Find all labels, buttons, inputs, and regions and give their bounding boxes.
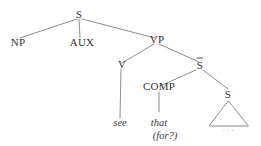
edge-vp-to-v bbox=[122, 44, 154, 63]
node-np: NP bbox=[11, 37, 25, 48]
leaf-that: that bbox=[151, 117, 167, 129]
node-aux: AUX bbox=[70, 37, 94, 48]
node-root-s: S bbox=[76, 9, 82, 20]
embedded-s-ellipsis: ... bbox=[223, 124, 236, 133]
node-embedded-s: S bbox=[225, 89, 231, 100]
leaf-for-question: (for?) bbox=[153, 130, 178, 142]
edge-v-to-see bbox=[120, 69, 121, 118]
node-v: V bbox=[118, 59, 126, 70]
syntax-tree-figure: S NP AUX VP V S COMP S see that (for?) .… bbox=[0, 0, 261, 146]
edge-sbar-to-s bbox=[203, 70, 228, 89]
edge-s-to-np bbox=[20, 19, 77, 38]
node-s-bar: S bbox=[197, 58, 203, 71]
node-comp: COMP bbox=[143, 81, 175, 92]
leaf-see: see bbox=[113, 117, 126, 129]
edge-vp-to-sbar bbox=[159, 44, 199, 62]
node-vp: VP bbox=[150, 34, 164, 45]
